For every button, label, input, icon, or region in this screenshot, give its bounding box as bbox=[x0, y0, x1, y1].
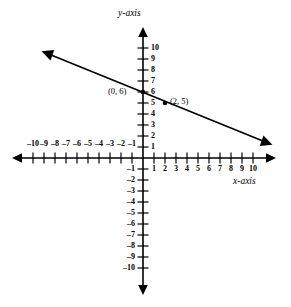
x-axis-left-arrowhead bbox=[12, 153, 22, 163]
x-axis-right-arrowhead bbox=[266, 153, 276, 163]
line-lower-right-arrowhead bbox=[260, 135, 273, 146]
point-label-2-5: (2, 5) bbox=[170, 96, 188, 106]
y-tick-label-neg-7: –7 bbox=[117, 230, 135, 239]
y-tick-label-neg-9: –9 bbox=[117, 252, 135, 261]
y-tick-label-3: 3 bbox=[151, 120, 167, 129]
y-tick-label-neg-1: –1 bbox=[117, 164, 135, 173]
y-axis-title: y-axis bbox=[118, 8, 141, 18]
y-tick-label-9: 9 bbox=[151, 54, 167, 63]
point-label-0-6: (0, 6) bbox=[108, 86, 126, 96]
x-tick-label-10: 10 bbox=[243, 164, 263, 173]
y-tick-label-10: 10 bbox=[151, 43, 167, 52]
y-axis-top-arrowhead bbox=[138, 27, 148, 37]
y-tick-label-7: 7 bbox=[151, 76, 167, 85]
y-tick-label-neg-8: –8 bbox=[117, 241, 135, 250]
y-tick-label-neg-5: –5 bbox=[117, 208, 135, 217]
x-axis-title: x-axis bbox=[233, 176, 256, 186]
y-axis-bottom-arrowhead bbox=[138, 285, 148, 295]
y-tick-label-neg-6: –6 bbox=[117, 219, 135, 228]
y-tick-label-1: 1 bbox=[151, 142, 167, 151]
y-tick-label-neg-2: –2 bbox=[117, 175, 135, 184]
line-upper-left-arrowhead bbox=[42, 50, 55, 61]
point-marker-0-6 bbox=[141, 90, 146, 95]
y-tick-label-neg-3: –3 bbox=[117, 186, 135, 195]
y-tick-label-neg-10: –10 bbox=[113, 263, 135, 272]
coordinate-plane-figure: y-axis x-axis –10 –9 –8 –7 –6 –5 –4 –3 –… bbox=[0, 0, 291, 307]
x-tick-label-neg-1: –1 bbox=[123, 139, 141, 148]
y-tick-label-6: 6 bbox=[151, 87, 167, 96]
y-tick-label-5: 5 bbox=[151, 98, 167, 107]
y-axis bbox=[138, 27, 148, 295]
y-tick-label-2: 2 bbox=[151, 131, 167, 140]
graph-canvas bbox=[0, 0, 291, 307]
x-axis bbox=[12, 153, 276, 163]
y-tick-label-4: 4 bbox=[151, 109, 167, 118]
y-tick-label-8: 8 bbox=[151, 65, 167, 74]
y-tick-label-neg-4: –4 bbox=[117, 197, 135, 206]
